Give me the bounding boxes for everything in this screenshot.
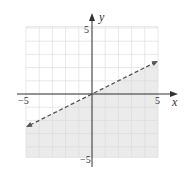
coordinate-plane: y x −5 5 5 −5 (0, 0, 186, 171)
y-max-tick-label: 5 (84, 24, 89, 35)
x-max-tick-label: 5 (155, 95, 160, 106)
x-axis-label: x (171, 95, 178, 109)
y-min-tick-label: −5 (80, 154, 91, 165)
x-min-tick-label: −5 (18, 95, 29, 106)
y-axis-label: y (98, 10, 105, 24)
